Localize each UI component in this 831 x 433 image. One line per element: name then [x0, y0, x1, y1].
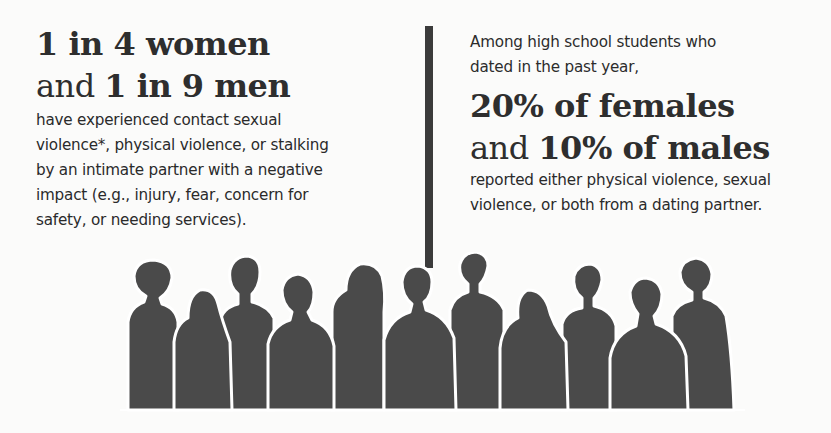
right-stat-headline: 20% of females: [470, 90, 830, 122]
people-icon: [120, 252, 745, 417]
lead-line: dated in the past year,: [470, 55, 830, 80]
females-stat: 20% of females: [470, 87, 735, 125]
vertical-divider: [425, 26, 433, 268]
men-stat: 1 in 9 men: [104, 67, 290, 105]
left-stat-panel: 1 in 4 women and 1 in 9 men have experie…: [36, 28, 416, 233]
right-stat-panel: Among high school students who dated in …: [470, 30, 830, 218]
left-stat-headline: 1 in 4 women: [36, 28, 416, 60]
lead-line: Among high school students who: [470, 30, 830, 55]
description-line: reported either physical violence, sexua…: [470, 168, 830, 193]
males-stat: 10% of males: [538, 129, 769, 167]
right-stat-description: reported either physical violence, sexua…: [470, 168, 830, 218]
description-line: have experienced contact sexual: [36, 108, 416, 133]
left-stat-subheadline: and 1 in 9 men: [36, 70, 416, 102]
left-stat-description: have experienced contact sexual violence…: [36, 108, 416, 233]
connector-text: and: [36, 67, 104, 105]
description-line: by an intimate partner with a negative: [36, 158, 416, 183]
connector-text: and: [470, 129, 538, 167]
right-stat-lead: Among high school students who dated in …: [470, 30, 830, 80]
right-stat-subheadline: and 10% of males: [470, 132, 830, 164]
description-line: impact (e.g., injury, fear, concern for: [36, 183, 416, 208]
crowd-silhouettes-illustration: [120, 252, 745, 417]
description-line: violence, or both from a dating partner.: [470, 193, 830, 218]
description-line: violence*, physical violence, or stalkin…: [36, 133, 416, 158]
description-line: safety, or needing services).: [36, 208, 416, 233]
women-stat: 1 in 4 women: [36, 25, 270, 63]
